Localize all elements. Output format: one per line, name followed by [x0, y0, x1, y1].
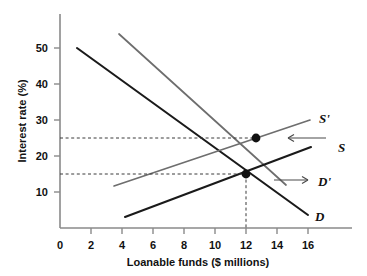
original-equilibrium-point [242, 170, 251, 179]
y-tick-label-10: 10 [36, 186, 48, 198]
x-tick-label-0: 0 [57, 239, 63, 251]
x-tick-label-2: 2 [88, 239, 94, 251]
new-equilibrium-point [252, 134, 261, 143]
x-tick-label-12: 12 [240, 239, 252, 251]
chart-figure: 50 40 30 20 10 0 2 4 6 8 10 12 14 16 Loa… [0, 0, 367, 276]
y-tick-label-30: 30 [36, 114, 48, 126]
x-tick-label-16: 16 [302, 239, 314, 251]
curve-label-d-prime: D' [317, 174, 331, 189]
curve-label-s: S [338, 140, 345, 155]
x-tick-label-8: 8 [181, 239, 187, 251]
loanable-funds-supply-demand-chart: 50 40 30 20 10 0 2 4 6 8 10 12 14 16 Loa… [0, 0, 367, 276]
y-axis-title: Interest rate (%) [16, 79, 28, 162]
curve-label-d: D [314, 209, 325, 224]
x-tick-label-6: 6 [150, 239, 156, 251]
x-tick-label-4: 4 [119, 239, 126, 251]
curve-label-s-prime: S' [319, 111, 330, 126]
y-tick-label-20: 20 [36, 150, 48, 162]
x-tick-label-14: 14 [271, 239, 284, 251]
x-axis-title: Loanable funds ($ millions) [127, 256, 270, 268]
x-tick-label-10: 10 [209, 239, 221, 251]
y-tick-label-40: 40 [36, 78, 48, 90]
y-tick-label-50: 50 [36, 42, 48, 54]
